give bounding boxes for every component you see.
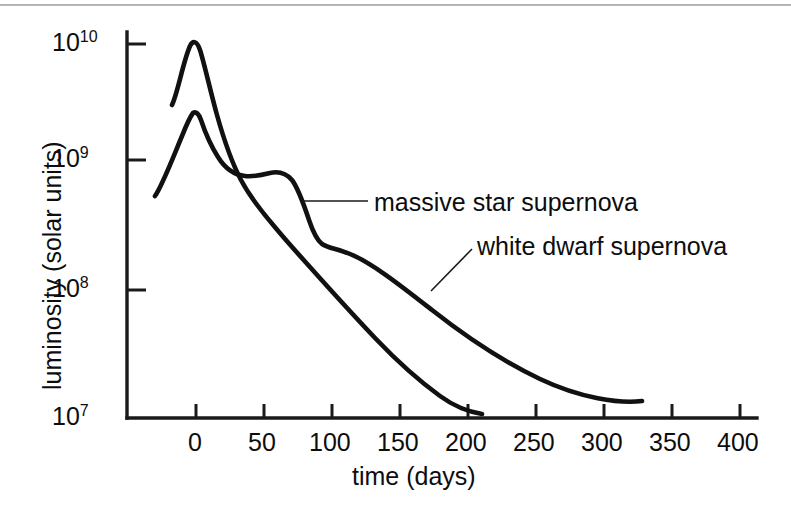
x-tick-label-100: 100 [309, 428, 351, 457]
leader-line-white-dwarf [431, 249, 472, 291]
x-tick-label-200: 200 [445, 428, 487, 457]
x-tick-label-150: 150 [377, 428, 419, 457]
annotation-massive-star-supernova: massive star supernova [374, 188, 638, 217]
x-tick-label-250: 250 [513, 428, 555, 457]
x-tick-label-300: 300 [581, 428, 623, 457]
x-tick-label-50: 50 [248, 428, 276, 457]
y-tick-exp-10: 10 [80, 28, 98, 45]
curve-white-dwarf-supernova [172, 42, 482, 414]
y-tick-exp-7: 7 [80, 402, 89, 419]
x-axis-title: time (days) [352, 462, 476, 491]
y-tick-exp-9: 9 [80, 144, 89, 161]
annotation-white-dwarf-supernova: white dwarf supernova [477, 232, 727, 261]
y-tick-exp-8: 8 [80, 274, 89, 291]
y-tick-label-1e10: 1010 [52, 28, 98, 57]
x-tick-label-350: 350 [649, 428, 691, 457]
y-tick-label-1e7: 107 [52, 402, 89, 431]
x-tick-label-400: 400 [717, 428, 759, 457]
x-tick-label-0: 0 [188, 428, 202, 457]
figure-canvas: 1010 109 108 107 0 50 100 150 200 250 30… [0, 0, 791, 508]
y-axis-title: luminosity (solar units) [38, 141, 67, 390]
